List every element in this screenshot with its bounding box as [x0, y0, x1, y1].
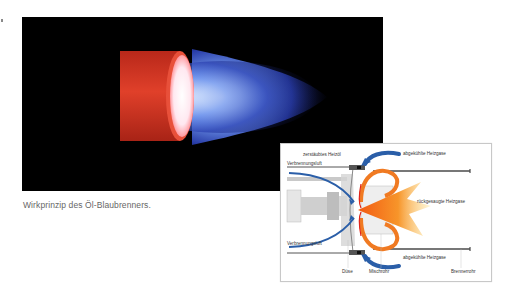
label-nozzle: Düse: [342, 270, 353, 275]
figure-caption: Wirkprinzip des Öl-Blaubrenners.: [23, 200, 151, 210]
label-mixing-tube: Mischrohr: [369, 270, 389, 275]
label-atomized-oil: zerstäubtes Heizöl: [303, 153, 341, 158]
label-combustion-air-bottom: Verbrennungsluft: [287, 242, 322, 247]
label-cooled-gas-top: abgekühlte Heizgase: [403, 152, 446, 157]
page-edge-mark: [1, 19, 3, 22]
burner-diagram: zerstäubtes Heizöl abgekühlte Heizgase V…: [280, 143, 492, 282]
label-recirculated-gas: rückgesaugte Heizgase: [417, 200, 465, 205]
label-cooled-gas-bottom: abgekühlte Heizgase: [403, 256, 446, 261]
label-burner-tube: Brennerrohr: [451, 270, 476, 275]
label-combustion-air-top: Verbrennungsluft: [287, 162, 322, 167]
